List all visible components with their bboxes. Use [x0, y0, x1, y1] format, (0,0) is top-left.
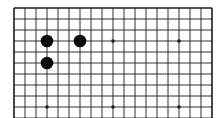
star-point-icon	[177, 39, 181, 43]
black-stone[interactable]	[41, 57, 54, 70]
black-stone[interactable]	[41, 35, 54, 48]
star-point-icon	[45, 105, 49, 109]
star-point-icon	[177, 105, 181, 109]
star-point-icon	[111, 39, 115, 43]
black-stone[interactable]	[74, 35, 87, 48]
star-point-icon	[111, 105, 115, 109]
board-grid[interactable]	[0, 0, 222, 118]
